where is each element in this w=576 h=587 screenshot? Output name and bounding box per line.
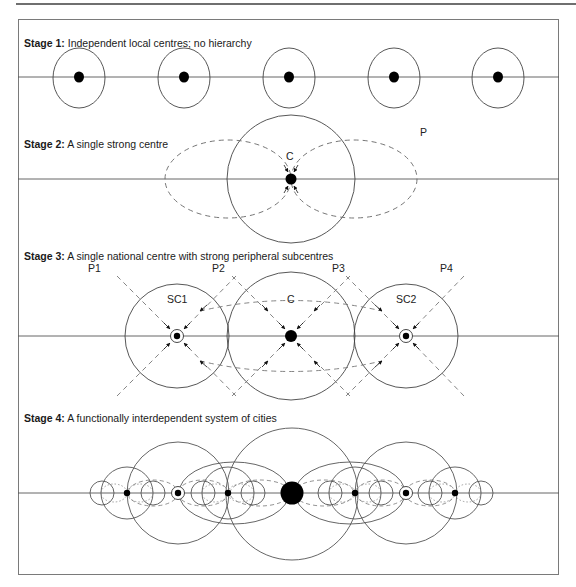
stage3-centre-label: C (287, 293, 295, 305)
stage3-graphic (18, 272, 559, 400)
stage3-periphery-label-p2: P2 (212, 262, 225, 274)
stage2-graphic (18, 115, 559, 243)
stage3-periphery-label-p4: P4 (440, 262, 453, 274)
stage3-subcentre-label-sc2: SC2 (396, 293, 416, 305)
stage3-subcentre-label-sc1: SC1 (167, 293, 187, 305)
stage3-title: Stage 3: A single national centre with s… (24, 250, 333, 262)
stage3-periphery-label-p3: P3 (332, 262, 345, 274)
stage2-title-text: A single strong centre (65, 138, 168, 150)
stage4-title-text: A functionally interdependent system of … (65, 412, 277, 424)
stage2-title-bold: Stage 2: (24, 138, 65, 150)
stage1-graphic (18, 48, 559, 108)
stage1-title: Stage 1: Independent local centres; no h… (24, 37, 252, 49)
stage4-title-bold: Stage 4: (24, 412, 65, 424)
stage4-title: Stage 4: A functionally interdependent s… (24, 412, 277, 424)
stage1-title-text: Independent local centres; no hierarchy (65, 37, 252, 49)
stage1-title-bold: Stage 1: (24, 37, 65, 49)
stage4-graphic (18, 428, 559, 560)
stage2-periphery-label: P (420, 126, 427, 138)
stage2-title: Stage 2: A single strong centre (24, 138, 168, 150)
stage3-title-bold: Stage 3: (24, 250, 65, 262)
stage2-centre-label: C (286, 150, 294, 162)
stage3-title-text: A single national centre with strong per… (65, 250, 334, 262)
stage3-periphery-label-p1: P1 (88, 262, 101, 274)
